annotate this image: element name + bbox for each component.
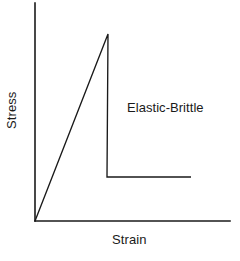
y-axis-label: Stress [5, 95, 18, 129]
x-axis-label: Strain [112, 233, 147, 246]
plot-canvas [0, 0, 240, 261]
elastic-brittle-curve [35, 34, 191, 221]
stress-strain-figure: Stress Strain Elastic-Brittle [0, 0, 240, 261]
curve-annotation-label: Elastic-Brittle [127, 101, 204, 114]
